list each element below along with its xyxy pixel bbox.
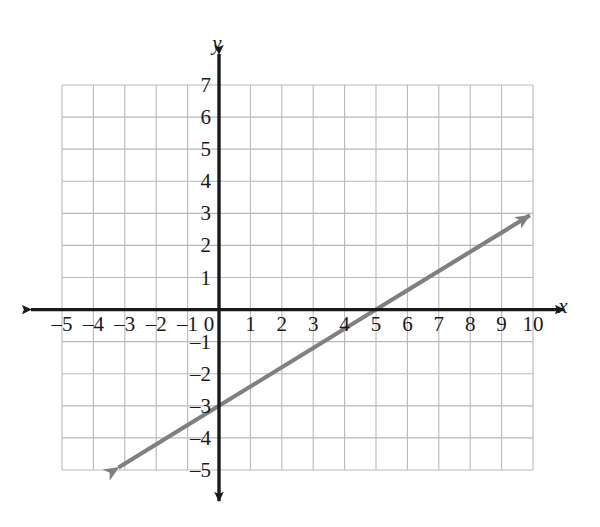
x-tick-label: –3 (113, 312, 135, 336)
x-tick-label: 4 (339, 312, 350, 336)
y-tick-label: 6 (201, 105, 212, 129)
y-axis-label: y (210, 31, 222, 55)
graph-figure: –5–4–3–2–1012345678910 7654321–1–2–3–4–5… (0, 0, 600, 527)
x-tick-label: 10 (523, 312, 544, 336)
x-tick-label: 3 (308, 312, 319, 336)
x-tick-label: 2 (277, 312, 288, 336)
x-tick-label: 9 (496, 312, 507, 336)
x-tick-label: –4 (82, 312, 105, 336)
y-tick-label: 5 (201, 137, 212, 161)
x-tick-label: 8 (465, 312, 476, 336)
coordinate-plane: –5–4–3–2–1012345678910 7654321–1–2–3–4–5… (0, 0, 600, 527)
y-tick-label: 2 (201, 233, 212, 257)
y-tick-label: –4 (189, 426, 212, 450)
x-tick-label: –2 (145, 312, 167, 336)
x-tick-label: –5 (51, 312, 73, 336)
y-tick-label: 3 (201, 201, 212, 225)
y-tick-label: –3 (189, 394, 211, 418)
y-tick-label: 1 (201, 266, 212, 290)
y-tick-label: –2 (189, 362, 211, 386)
x-tick-label: 7 (434, 312, 445, 336)
y-tick-label: 4 (201, 169, 212, 193)
x-axis-tick-labels: –5–4–3–2–1012345678910 (51, 312, 544, 336)
x-axis-label: x (557, 294, 568, 318)
x-tick-label: 1 (245, 312, 256, 336)
y-tick-label: 7 (201, 73, 212, 97)
x-tick-label: 5 (371, 312, 382, 336)
grid-lines (62, 85, 533, 470)
y-tick-label: –1 (189, 330, 211, 354)
y-tick-label: –5 (189, 458, 211, 482)
x-tick-label: 6 (402, 312, 413, 336)
